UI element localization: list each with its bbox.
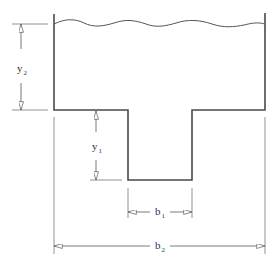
y1-label: y1	[92, 140, 103, 155]
y1-dimension: y1	[90, 111, 122, 180]
y2-label: y2	[17, 62, 28, 77]
channel-outline	[54, 13, 265, 180]
b1-label: b1	[155, 205, 166, 220]
water-surface	[54, 20, 265, 27]
b2-dimension: b2	[54, 239, 265, 254]
y2-dimension: y2	[12, 24, 48, 110]
b2-label: b2	[155, 239, 166, 254]
compound-channel-diagram: y2 y1 b1 b2	[0, 0, 279, 265]
b1-dimension: b1	[128, 205, 192, 220]
